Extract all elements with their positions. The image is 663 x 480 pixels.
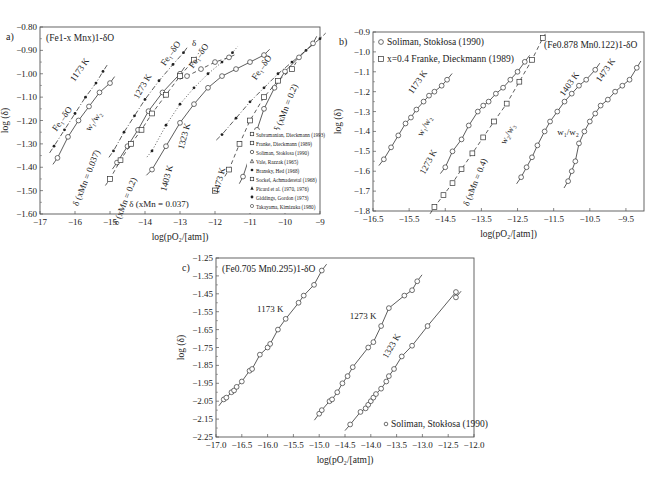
data-point <box>276 78 281 83</box>
data-point <box>542 129 547 134</box>
data-point <box>139 127 144 132</box>
legend-entry: Soliman, Stokłosa (1990) <box>387 37 484 48</box>
data-point <box>569 91 574 96</box>
data-point <box>248 60 253 65</box>
data-point <box>277 72 280 75</box>
data-point <box>481 135 486 140</box>
legend-entry: Subramanian, Dieckmann (1993) <box>256 132 325 139</box>
legend-entry: Vale, Razzak (1965) <box>256 159 298 166</box>
data-point <box>486 99 491 104</box>
fit-line <box>109 46 188 157</box>
data-point <box>409 115 414 120</box>
data-point <box>112 149 115 152</box>
y-tick-label: −1.85 <box>192 360 213 370</box>
data-point <box>587 119 592 124</box>
y-tick-label: −1.35 <box>192 271 213 281</box>
data-point <box>151 149 154 152</box>
y-tick-label: −0.90 <box>16 45 37 55</box>
data-point <box>381 157 386 162</box>
annotation-label: 1273 K <box>131 72 153 101</box>
data-point <box>250 177 253 180</box>
x-axis: −17.0−16.5−16.0−15.5−15.0−14.5−14.0−13.5… <box>206 434 485 450</box>
data-point <box>517 79 522 84</box>
x-axis-label: log(pO₂/[atm]) <box>317 455 374 466</box>
legend-entry: x=0.4 Franke, Dieckmann (1989) <box>387 54 514 65</box>
data-point <box>386 306 391 311</box>
data-point <box>296 300 301 305</box>
series <box>216 33 325 140</box>
data-point <box>221 133 224 136</box>
data-point <box>386 374 391 379</box>
data-point <box>501 85 506 90</box>
annotation-label: δ <box>192 38 196 48</box>
data-point <box>268 342 273 347</box>
annotation-label: Fe₁₋δO <box>159 39 183 68</box>
y-tick-label: −1.95 <box>192 378 213 388</box>
data-point <box>605 97 610 102</box>
data-point <box>206 85 211 90</box>
data-point <box>427 93 432 98</box>
data-point <box>522 59 527 64</box>
data-point <box>627 77 632 82</box>
data-point <box>213 60 218 65</box>
data-point <box>340 381 345 386</box>
data-point <box>593 67 598 72</box>
series <box>109 46 188 157</box>
data-point <box>562 99 567 104</box>
data-point <box>87 104 92 109</box>
annotation-label: 1173 K <box>257 304 284 314</box>
x-tick-label: −10 <box>278 217 293 227</box>
data-point <box>508 77 513 82</box>
data-point <box>319 268 324 273</box>
x-tick-label: −12.5 <box>507 214 528 224</box>
y-tick-label: −1.20 <box>16 116 37 126</box>
data-point <box>283 316 288 321</box>
data-point <box>241 174 246 179</box>
data-point <box>374 392 379 397</box>
data-point <box>524 165 529 170</box>
y-tick-label: −1.10 <box>16 92 37 102</box>
y-tick-label: −1.60 <box>16 209 37 219</box>
data-point <box>613 89 618 94</box>
data-point <box>150 167 155 172</box>
legend-entry: Takayama, Kimizuka (1980) <box>256 204 316 211</box>
data-point <box>250 204 253 207</box>
data-point <box>348 422 353 427</box>
data-point <box>620 83 625 88</box>
series <box>517 63 600 184</box>
data-point <box>470 151 475 156</box>
x-tick-label: −11.5 <box>543 214 564 224</box>
data-point <box>493 91 498 96</box>
data-point <box>432 205 437 210</box>
fit-line <box>219 264 327 406</box>
data-point <box>129 141 134 146</box>
data-point <box>251 169 254 172</box>
x-tick-label: −16 <box>68 217 83 227</box>
panel-title: (Fe0.878 Mn0.122)1-δO <box>544 40 638 51</box>
data-point <box>178 74 183 79</box>
data-point <box>250 141 253 144</box>
data-point <box>108 81 113 86</box>
data-point <box>250 367 255 372</box>
data-point <box>185 74 190 79</box>
panel-title: (Fe0.705 Mn0.295)1-δO <box>222 264 316 275</box>
data-point <box>193 86 196 89</box>
data-point <box>227 167 232 172</box>
data-point <box>402 293 407 298</box>
data-point <box>165 124 168 127</box>
legend-entry: Picard et al. (1970, 1976) <box>256 186 309 193</box>
data-point <box>389 145 394 150</box>
data-point <box>234 384 239 389</box>
data-point <box>66 134 71 139</box>
annotation-label: w₁/w₂ <box>83 109 104 133</box>
fit-line <box>216 33 325 140</box>
y-tick-label: −1.0 <box>354 47 371 57</box>
y-tick-label: −1.7 <box>354 186 371 196</box>
data-point <box>301 293 306 298</box>
data-point <box>262 95 267 100</box>
chart-panel-a: −17−16−15−14−13−12−11−10−9−0.80−0.90−1.0… <box>0 22 326 243</box>
data-point <box>415 279 420 284</box>
data-point <box>366 345 371 350</box>
data-point <box>519 175 524 180</box>
data-point <box>237 141 242 146</box>
